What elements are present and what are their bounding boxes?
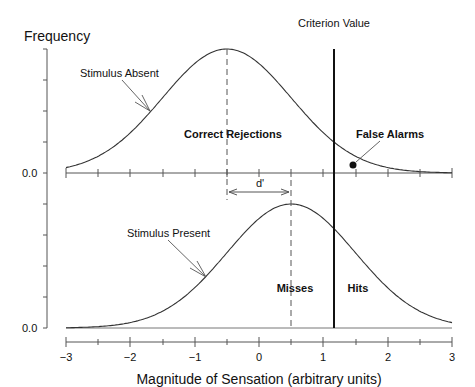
stimulus-present-label: Stimulus Present [127, 227, 210, 239]
x-tick-label: −1 [189, 351, 202, 363]
y-axis [43, 49, 47, 328]
d-prime-arrow [229, 189, 289, 195]
false-alarms-dot [350, 162, 357, 169]
stimulus-present-curve [66, 204, 452, 328]
x-tick-label: 2 [385, 351, 391, 363]
d-prime-label: d' [256, 177, 264, 189]
x-tick-label: 3 [449, 351, 455, 363]
false-alarms-label: False Alarms [356, 128, 424, 140]
correct-rejections-label: Correct Rejections [184, 128, 282, 140]
y-zero-label-top: 0.0 [22, 167, 37, 179]
false-alarms-pointer [356, 141, 380, 162]
y-axis-label: Frequency [24, 28, 90, 44]
x-axis [66, 337, 452, 347]
x-tick-label: 0 [256, 351, 262, 363]
signal-detection-chart: Frequency 0.0 0.0 −3 [0, 0, 475, 387]
criterion-label: Criterion Value [298, 17, 370, 29]
x-axis-label: Magnitude of Sensation (arbitrary units) [136, 371, 381, 387]
x-tick-label: 1 [320, 351, 326, 363]
x-tick-label: −2 [124, 351, 137, 363]
stimulus-absent-label: Stimulus Absent [80, 67, 159, 79]
x-tick-label: −3 [60, 351, 73, 363]
misses-label: Misses [277, 282, 314, 294]
y-zero-label-bottom: 0.0 [22, 322, 37, 334]
stimulus-absent-pointer [122, 80, 150, 111]
stimulus-present-pointer [168, 240, 206, 277]
x-tick-labels: −3 −2 −1 0 1 2 3 [60, 351, 455, 363]
hits-label: Hits [348, 282, 369, 294]
